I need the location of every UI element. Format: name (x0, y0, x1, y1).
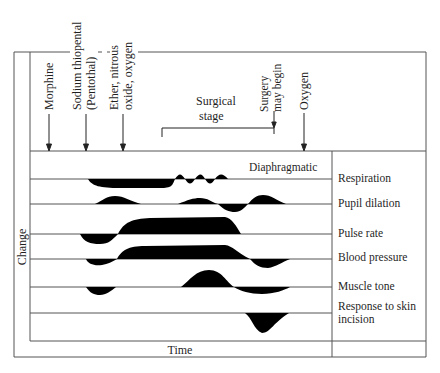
marker-label-ether: Ether, nitrous (107, 45, 121, 110)
pulse-rate-waveform (80, 234, 118, 244)
muscle-tone-waveform (86, 287, 116, 295)
y-axis-label: Change (15, 229, 29, 266)
row-label-skin-incision-line2: incision (338, 313, 374, 326)
marker-label-oxide: oxide, oxygen (121, 42, 135, 110)
arrow-down-icon (302, 144, 307, 151)
row-label-muscle-tone: Muscle tone (338, 280, 395, 293)
row-label-pulse-rate: Pulse rate (338, 227, 383, 240)
arrow-down-icon (121, 144, 126, 151)
diaphragmatic-annotation: Diaphragmatic (249, 161, 317, 174)
surgical-stage-label-1: Surgical (196, 94, 236, 108)
marker-label-pentothal: (Pentothal) (84, 57, 98, 110)
marker-label-oxygen: Oxygen (297, 72, 311, 110)
arrow-down-icon (272, 122, 276, 128)
surgical-stage-label-2: stage (199, 109, 224, 123)
x-axis-label: Time (168, 343, 193, 357)
pupil-dilation-waveform (95, 196, 141, 204)
arrow-down-icon (84, 144, 89, 151)
marker-label-morphine: Morphine (42, 63, 56, 110)
respiration-waveform (88, 175, 228, 189)
arrow-down-icon (47, 144, 52, 151)
blood-pressure-waveform (86, 259, 117, 265)
row-label-blood-pressure: Blood pressure (338, 251, 407, 264)
row-label-skin-incision: Response to skin (338, 300, 416, 313)
row-label-respiration: Respiration (338, 172, 391, 185)
skin-incision-response-waveform (245, 313, 289, 333)
surgical-stage-bracket (162, 128, 274, 137)
marker-label-may-begin: may begin (271, 64, 284, 112)
marker-label-thiopental: Sodium thiopental (70, 21, 84, 110)
marker-label-surgery: Surgery (258, 76, 271, 112)
row-label-pupil-dilation: Pupil dilation (338, 197, 400, 210)
